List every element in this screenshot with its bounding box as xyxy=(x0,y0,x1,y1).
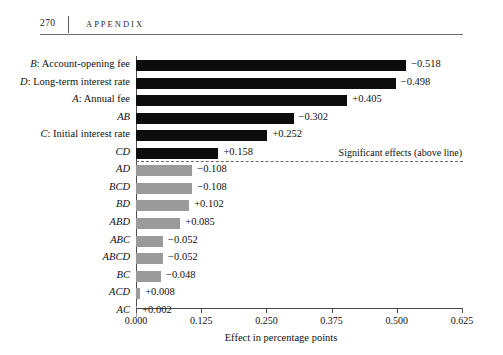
x-axis-tick xyxy=(462,308,463,313)
category-label: BCD xyxy=(0,181,130,192)
x-axis-tick-label: 0.625 xyxy=(451,315,474,326)
x-axis-tick-label: 0.250 xyxy=(255,315,278,326)
category-label-text: : Account-opening fee xyxy=(37,58,130,69)
category-label-text: : Long-term interest rate xyxy=(28,76,130,87)
bar-value-label: −0.052 xyxy=(168,234,198,245)
bar-value-label: −0.048 xyxy=(166,269,196,280)
x-axis-title-text: Effect in percentage points xyxy=(225,332,338,343)
pareto-effects-chart: B: Account-opening fee−0.518D: Long-term… xyxy=(0,52,503,352)
category-label-code: AD xyxy=(116,163,130,174)
category-label: AB xyxy=(0,111,130,122)
significance-annotation: Significant effects (above line) xyxy=(339,147,462,158)
category-label-code: CD xyxy=(115,146,130,157)
bar-value-label: +0.002 xyxy=(142,304,172,315)
bar-row: +0.405 xyxy=(136,92,503,110)
bar-value-label: −0.498 xyxy=(401,76,431,87)
page-number: 270 xyxy=(40,18,55,28)
bar-row: −0.048 xyxy=(136,268,503,286)
category-label-code: BCD xyxy=(109,181,130,192)
x-axis-tick xyxy=(397,308,398,313)
category-label: CD xyxy=(0,146,130,157)
category-label-code: ABC xyxy=(110,234,130,245)
category-label: ABCD xyxy=(0,251,130,262)
bar xyxy=(136,165,192,176)
category-label: ACD xyxy=(0,286,130,297)
bar-value-label: −0.302 xyxy=(299,111,329,122)
bar xyxy=(136,236,163,247)
category-label-code: ACD xyxy=(109,286,130,297)
category-label-text: : Annual fee xyxy=(79,93,130,104)
running-head: APPENDIX xyxy=(86,19,144,29)
bar-row: −0.518 xyxy=(136,57,503,75)
category-label: AD xyxy=(0,163,130,174)
bar xyxy=(136,130,267,141)
bar-value-label: +0.405 xyxy=(352,93,382,104)
x-axis-title: Effect in percentage points xyxy=(0,332,503,343)
category-label-code: ABD xyxy=(110,216,130,227)
bar xyxy=(136,288,140,299)
bar-row: −0.052 xyxy=(136,250,503,268)
bar xyxy=(136,78,396,89)
category-label: D: Long-term interest rate xyxy=(0,76,130,87)
bar-value-label: +0.102 xyxy=(194,198,224,209)
category-label-code: ABCD xyxy=(103,251,130,262)
bar-value-label: −0.108 xyxy=(197,181,227,192)
bar xyxy=(136,253,163,264)
bar-row: +0.085 xyxy=(136,215,503,233)
x-axis-tick xyxy=(332,308,333,313)
bar xyxy=(136,95,347,106)
x-axis-tick xyxy=(136,308,137,313)
header-horizontal-rule xyxy=(40,34,463,35)
bar xyxy=(136,183,192,194)
category-label-code: AB xyxy=(117,111,130,122)
bar-row: −0.498 xyxy=(136,75,503,93)
header-divider-rule xyxy=(68,16,69,33)
bar-row: +0.252 xyxy=(136,127,503,145)
bar xyxy=(136,148,218,159)
category-label-code: BD xyxy=(116,198,130,209)
x-axis-tick xyxy=(266,308,267,313)
x-axis-tick-label: 0.500 xyxy=(386,315,409,326)
category-label: BC xyxy=(0,269,130,280)
bar-row: −0.052 xyxy=(136,233,503,251)
bar-value-label: +0.252 xyxy=(272,128,302,139)
significance-divider-line xyxy=(136,161,463,162)
category-label-code: BC xyxy=(117,269,130,280)
bar-value-label: −0.108 xyxy=(197,163,227,174)
category-label: C: Initial interest rate xyxy=(0,128,130,139)
bar-value-label: −0.518 xyxy=(411,58,441,69)
category-label: B: Account-opening fee xyxy=(0,58,130,69)
x-axis-tick-label: 0.375 xyxy=(320,315,343,326)
category-label: A: Annual fee xyxy=(0,93,130,104)
bar-value-label: +0.158 xyxy=(223,146,253,157)
page-header: 270 APPENDIX xyxy=(40,18,463,40)
category-label: ABC xyxy=(0,234,130,245)
bar-row: +0.008 xyxy=(136,285,503,303)
x-axis-tick-label: 0.000 xyxy=(125,315,148,326)
category-label: BD xyxy=(0,198,130,209)
bar-row: −0.302 xyxy=(136,110,503,128)
bar xyxy=(136,271,161,282)
bar-row: −0.108 xyxy=(136,162,503,180)
category-label-code: AC xyxy=(117,304,130,315)
bar-row: +0.102 xyxy=(136,197,503,215)
bar xyxy=(136,200,189,211)
category-label: ABD xyxy=(0,216,130,227)
bar-value-label: +0.008 xyxy=(145,286,175,297)
x-axis-tick-label: 0.125 xyxy=(190,315,213,326)
bar xyxy=(136,113,294,124)
bar-value-label: +0.085 xyxy=(185,216,215,227)
bar xyxy=(136,218,180,229)
bar-value-label: −0.052 xyxy=(168,251,198,262)
category-label-code: D xyxy=(20,76,28,87)
x-axis-tick xyxy=(201,308,202,313)
bar xyxy=(136,60,406,71)
bar-row: −0.108 xyxy=(136,180,503,198)
category-label: AC xyxy=(0,304,130,315)
category-label-text: : Initial interest rate xyxy=(47,128,130,139)
